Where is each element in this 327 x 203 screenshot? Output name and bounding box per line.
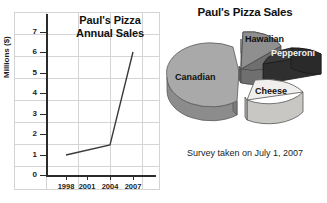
pie-chart-caption: Survey taken on July 1, 2007: [163, 148, 327, 158]
pie-slice-label-hawaiian: Hawaiian: [245, 34, 284, 44]
line-chart-panel: 7 6 5 4 3 2 1 0 1998 2001 2004 2007: [0, 0, 163, 203]
pie-slice-pepperoni: Pepperoni: [263, 48, 321, 84]
pie-slice-label-cheese: Cheese: [255, 86, 287, 96]
pie-chart-title: Paul's Pizza Sales: [163, 6, 327, 18]
line-chart-title: Paul's Pizza Annual Sales: [62, 14, 158, 40]
pie-slice-label-pepperoni: Pepperoni: [271, 48, 315, 58]
pie-slice-label-canadian: Canadian: [175, 72, 216, 82]
pie-chart-panel: Paul's Pizza Sales Canadian Hawaiian: [163, 0, 327, 203]
figure-container: 7 6 5 4 3 2 1 0 1998 2001 2004 2007: [0, 0, 327, 203]
pie-chart-graphic: Canadian Hawaiian Pepperoni: [163, 22, 327, 150]
line-chart-title-line2: Annual Sales: [62, 27, 158, 40]
pie-slice-canadian: Canadian: [167, 43, 239, 121]
pie-slice-cheese: Cheese: [245, 79, 303, 123]
y-axis-title: Millions ($): [2, 36, 11, 78]
line-chart-title-line1: Paul's Pizza: [62, 14, 158, 27]
